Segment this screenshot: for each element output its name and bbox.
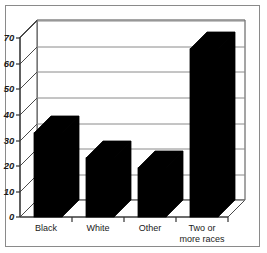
- x-category-label-other: Other: [124, 223, 176, 234]
- bar-side-face: [218, 32, 235, 217]
- bar-black[interactable]: [34, 116, 79, 217]
- bar-front-face: [86, 158, 114, 217]
- bar-chart-3d: [6, 6, 261, 248]
- y-tick-label-70: 70: [0, 32, 14, 43]
- bar-front-face: [190, 49, 218, 217]
- x-category-label-two-or-more-races-line1: Two or: [176, 223, 228, 234]
- y-tick-label-20: 20: [0, 160, 14, 171]
- bar-other[interactable]: [138, 151, 183, 217]
- y-tick-label-30: 30: [0, 135, 14, 146]
- x-category-label-two-or-more-races-line2: more races: [170, 234, 234, 245]
- bar-side-face: [62, 116, 79, 217]
- bar-two-or-more-races[interactable]: [190, 32, 235, 217]
- chart-frame: 0 10 20 30 40 50 60 70 Black White Other…: [5, 5, 260, 247]
- y-tick-label-10: 10: [0, 186, 14, 197]
- bar-front-face: [138, 168, 166, 217]
- y-tick-label-50: 50: [0, 83, 14, 94]
- bar-white[interactable]: [86, 141, 131, 217]
- y-tick-label-40: 40: [0, 109, 14, 120]
- x-category-label-white: White: [72, 223, 124, 234]
- y-tick-label-60: 60: [0, 58, 14, 69]
- y-tick-label-0: 0: [0, 211, 14, 222]
- x-category-label-black: Black: [20, 223, 72, 234]
- bar-front-face: [34, 133, 62, 217]
- x-axis-ticks: [72, 217, 228, 222]
